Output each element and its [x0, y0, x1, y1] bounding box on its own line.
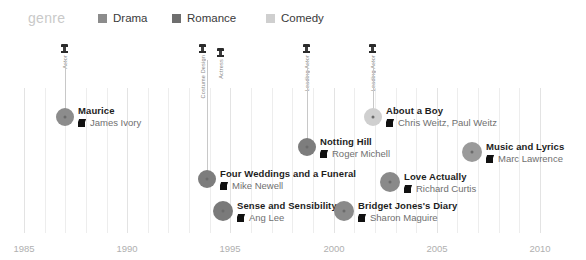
- film-director-row: Chris Weitz, Paul Weitz: [386, 117, 497, 128]
- clapperboard-icon: [358, 214, 366, 222]
- film-title: Four Weddings and a Funeral: [220, 168, 356, 179]
- film-title: Bridget Jones's Diary: [358, 200, 457, 211]
- film-label[interactable]: MauriceJames Ivory: [78, 105, 141, 128]
- marker-leader-line: [207, 60, 208, 179]
- legend-label: Comedy: [281, 12, 324, 24]
- film-director-row: Roger Michell: [320, 148, 390, 159]
- film-title: About a Boy: [386, 105, 497, 116]
- clapperboard-icon: [404, 185, 412, 193]
- film-title: Love Actually: [404, 171, 476, 182]
- gridline: [168, 88, 169, 233]
- film-director: Marc Lawrence: [498, 153, 563, 164]
- film-director: Roger Michell: [332, 148, 390, 159]
- clapperboard-icon: [486, 155, 494, 163]
- award-icon: [302, 44, 311, 53]
- film-director: Richard Curtis: [416, 183, 476, 194]
- award-label: Costume Design: [200, 55, 206, 98]
- gridline: [189, 88, 190, 233]
- data-point-marker[interactable]: [334, 201, 354, 221]
- film-director-row: Richard Curtis: [404, 183, 476, 194]
- film-label[interactable]: Music and LyricsMarc Lawrence: [486, 141, 564, 164]
- data-point-marker[interactable]: [364, 108, 382, 126]
- marker-center-dot: [343, 210, 346, 213]
- legend-swatch-romance: [172, 14, 181, 23]
- gridline: [24, 88, 25, 233]
- film-label[interactable]: Bridget Jones's DiarySharon Maguire: [358, 200, 457, 223]
- award-icon: [368, 44, 377, 53]
- film-label[interactable]: About a BoyChris Weitz, Paul Weitz: [386, 105, 497, 128]
- legend-item-drama[interactable]: Drama: [98, 12, 148, 24]
- marker-center-dot: [306, 146, 309, 149]
- award-icon: [216, 48, 225, 57]
- data-point-marker[interactable]: [380, 172, 400, 192]
- marker-center-dot: [372, 116, 375, 119]
- film-director: Mike Newell: [232, 180, 283, 191]
- data-point-marker[interactable]: [462, 142, 482, 162]
- film-director-row: Sharon Maguire: [358, 212, 457, 223]
- film-director-row: Ang Lee: [237, 212, 337, 223]
- legend-label: Drama: [113, 12, 148, 24]
- data-point-marker[interactable]: [198, 170, 216, 188]
- marker-center-dot: [389, 181, 392, 184]
- film-director: Ang Lee: [249, 212, 284, 223]
- data-point-marker[interactable]: [56, 108, 74, 126]
- axis-tick-2005: 2005: [426, 243, 447, 254]
- film-director: Sharon Maguire: [370, 212, 438, 223]
- axis-tick-1985: 1985: [13, 243, 34, 254]
- gridline: [354, 88, 355, 233]
- marker-center-dot: [471, 151, 474, 154]
- film-director: Chris Weitz, Paul Weitz: [398, 117, 497, 128]
- clapperboard-icon: [320, 150, 328, 158]
- gridline: [210, 88, 211, 233]
- legend-item-romance[interactable]: Romance: [172, 12, 236, 24]
- legend-swatch-comedy: [266, 14, 275, 23]
- axis-tick-2010: 2010: [529, 243, 550, 254]
- data-point-marker[interactable]: [213, 201, 233, 221]
- film-title: Music and Lyrics: [486, 141, 564, 152]
- film-label[interactable]: Sense and SensibilityAng Lee: [237, 200, 337, 223]
- film-label[interactable]: Love ActuallyRichard Curtis: [404, 171, 476, 194]
- film-title: Sense and Sensibility: [237, 200, 337, 211]
- clapperboard-icon: [237, 214, 245, 222]
- film-director: James Ivory: [90, 117, 141, 128]
- film-director-row: James Ivory: [78, 117, 141, 128]
- clapperboard-icon: [220, 182, 228, 190]
- axis-tick-1995: 1995: [219, 243, 240, 254]
- axis-tick-2000: 2000: [323, 243, 344, 254]
- award-annotation: Actress: [216, 48, 225, 79]
- marker-leader-line: [307, 60, 308, 147]
- film-label[interactable]: Notting HillRoger Michell: [320, 136, 390, 159]
- legend-item-comedy[interactable]: Comedy: [266, 12, 324, 24]
- award-icon: [60, 44, 69, 53]
- marker-center-dot: [64, 116, 67, 119]
- timeline-chart: genre DramaRomanceComedy 198519901995200…: [0, 0, 586, 260]
- legend-title: genre: [28, 10, 65, 26]
- data-point-marker[interactable]: [298, 138, 316, 156]
- film-director-row: Mike Newell: [220, 180, 356, 191]
- clapperboard-icon: [386, 119, 394, 127]
- legend-label: Romance: [187, 12, 236, 24]
- legend-swatch-drama: [98, 14, 107, 23]
- gridline: [148, 88, 149, 233]
- clapperboard-icon: [78, 119, 86, 127]
- gridline: [45, 88, 46, 233]
- marker-center-dot: [222, 210, 225, 213]
- film-label[interactable]: Four Weddings and a FuneralMike Newell: [220, 168, 356, 191]
- award-icon: [198, 44, 207, 53]
- film-title: Maurice: [78, 105, 141, 116]
- award-annotation: Costume Design: [198, 44, 207, 98]
- film-title: Notting Hill: [320, 136, 390, 147]
- marker-center-dot: [206, 178, 209, 181]
- award-label: Actress: [218, 59, 224, 79]
- axis-tick-1990: 1990: [116, 243, 137, 254]
- film-director-row: Marc Lawrence: [486, 153, 564, 164]
